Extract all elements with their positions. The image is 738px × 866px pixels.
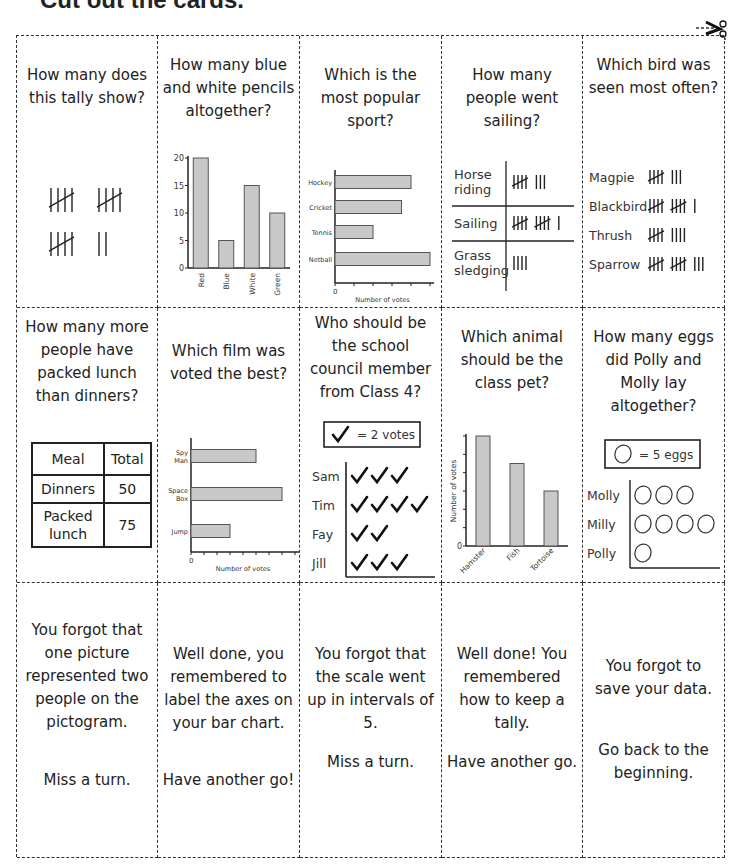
feedback-text: You forgot to save your data. (587, 655, 720, 701)
card-birds[interactable]: Which bird was seen most often? MagpieBl… (583, 36, 725, 308)
row-label: Polly (587, 546, 617, 561)
card-sailing[interactable]: How many people went sailing? Horseridin… (442, 36, 583, 308)
card-question: How many more people have packed lunch t… (21, 316, 153, 408)
x-tick-label: Green (273, 273, 282, 296)
bar-cricket (335, 201, 402, 214)
bar-hamster (476, 436, 490, 546)
feedback-text: Well done! You remembered how to keep a … (446, 643, 578, 735)
y-tick-label: Netball (309, 256, 332, 264)
card-grid: How many does this tally show? How many … (16, 35, 724, 857)
check-icon (372, 555, 387, 569)
card-eggs[interactable]: How many eggs did Polly and Molly lay al… (583, 308, 725, 583)
film-bar-chart: 0Number of votesSpyManSpaceBoxJump (158, 428, 300, 578)
table-cell: 50 (104, 475, 151, 503)
council-pictogram: = 2 votesSamTimFayJill (300, 420, 442, 580)
table-header: Meal (32, 443, 104, 475)
check-icon (352, 468, 367, 482)
egg-icon (632, 542, 653, 564)
card-question: Which film was voted the best? (162, 340, 295, 386)
table-header-row: Meal Total (32, 443, 151, 475)
egg-icon (612, 443, 633, 465)
x-axis-label: Number of votes (216, 565, 271, 573)
y-tick-label: Space (168, 487, 188, 495)
bar-jump (191, 525, 230, 538)
bar-red (193, 158, 208, 268)
feedback-action: Have another go. (446, 751, 578, 774)
egg-icon (653, 484, 674, 506)
row-label: Magpie (589, 170, 635, 185)
tally-mark-cross (49, 237, 74, 251)
tally-marks (41, 176, 141, 266)
row-label: Blackbird (589, 199, 647, 214)
tally-mark-cross (97, 193, 122, 207)
table-cell: 75 (104, 503, 151, 547)
table-row: Packed lunch 75 (32, 503, 151, 547)
birds-tally-chart: MagpieBlackbirdThrushSparrow (583, 156, 724, 296)
feedback-action: Have another go! (162, 769, 295, 792)
card-feedback-1[interactable]: You forgot that one picture represented … (17, 583, 158, 858)
bar-tennis (335, 226, 373, 239)
y-tick-label: 10 (174, 209, 184, 218)
x-tick-label: 0 (189, 557, 193, 565)
card-question: Who should be the school council member … (304, 312, 437, 404)
check-icon (372, 497, 387, 511)
card-lunch[interactable]: How many more people have packed lunch t… (17, 308, 158, 583)
y-axis-label: Number of votes (449, 460, 458, 523)
y-tick-label: 5 (179, 237, 184, 246)
pictogram-key-label: = 2 votes (357, 428, 415, 442)
card-feedback-5[interactable]: You forgot to save your data. Go back to… (583, 583, 725, 858)
y-tick-label: 20 (174, 154, 184, 163)
bar-white (244, 186, 259, 269)
card-feedback-4[interactable]: Well done! You remembered how to keep a … (442, 583, 583, 858)
card-sport[interactable]: Which is the most popular sport? 0Number… (300, 36, 442, 308)
card-question: How many eggs did Polly and Molly lay al… (587, 326, 720, 418)
row-label: Tim (311, 498, 335, 513)
sailing-tally-chart: HorseridingSailingGrasssledging (442, 156, 583, 296)
card-tally-count[interactable]: How many does this tally show? (17, 36, 158, 308)
check-icon (372, 526, 387, 540)
card-feedback-3[interactable]: You forgot that the scale went up in int… (300, 583, 442, 858)
bar-space-box (191, 488, 282, 501)
tally-mark-cross (49, 193, 74, 207)
y-tick-label: Spy (176, 449, 188, 457)
feedback-text: Well done, you remembered to label the a… (162, 643, 295, 735)
card-question: Which is the most popular sport? (304, 64, 437, 133)
check-icon (352, 526, 367, 540)
bar-hockey (335, 176, 411, 189)
meal-table: Meal Total Dinners 50 Packed lunch 75 (31, 442, 152, 548)
x-tick-label: Blue (222, 273, 231, 290)
egg-icon (695, 513, 716, 535)
x-axis-label: Number of votes (355, 296, 410, 304)
egg-icon (674, 513, 695, 535)
y-tick-label: Jump (171, 528, 189, 536)
card-question: How many does this tally show? (21, 64, 153, 110)
check-icon (372, 468, 387, 482)
card-film[interactable]: Which film was voted the best? 0Number o… (158, 308, 300, 583)
row-label: Thrush (588, 228, 632, 243)
table-row: Dinners 50 (32, 475, 151, 503)
y-tick-label: Tennis (311, 229, 333, 237)
pictogram-key-label: = 5 eggs (639, 448, 693, 462)
bar-blue (219, 241, 234, 269)
x-tick-label: Fish (505, 546, 522, 563)
egg-icon (632, 513, 653, 535)
card-question: Which bird was seen most often? (587, 54, 720, 100)
card-animal[interactable]: Which animal should be the class pet? 0N… (442, 308, 583, 583)
x-tick-label: 0 (333, 288, 337, 296)
bar-green (270, 213, 285, 268)
feedback-text: You forgot that one picture represented … (21, 619, 153, 734)
y-tick-label: 0 (179, 264, 184, 273)
bar-spy-man (191, 450, 256, 463)
row-label: Molly (587, 488, 620, 503)
card-feedback-2[interactable]: Well done, you remembered to label the a… (158, 583, 300, 858)
animal-bar-chart: 0Number of votesHamsterFishTortoise (442, 418, 583, 583)
row-label: riding (454, 182, 491, 197)
check-icon (392, 497, 407, 511)
card-question: How many people went sailing? (446, 64, 578, 133)
card-pencils[interactable]: How many blue and white pencils altogeth… (158, 36, 300, 308)
card-council[interactable]: Who should be the school council member … (300, 308, 442, 583)
row-label: Sam (312, 469, 340, 484)
card-question: Which animal should be the class pet? (446, 326, 578, 395)
feedback-action: Miss a turn. (21, 769, 153, 792)
check-icon (392, 555, 407, 569)
